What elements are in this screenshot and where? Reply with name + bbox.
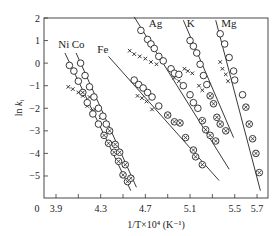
cross-marker bbox=[224, 73, 228, 77]
open-circle-marker bbox=[82, 72, 89, 79]
open-circle-marker bbox=[75, 78, 82, 85]
open-circle-marker bbox=[193, 50, 200, 57]
open-circle-marker bbox=[203, 81, 210, 88]
y-tick-label: −2 bbox=[29, 103, 40, 114]
y-tick-label: −4 bbox=[29, 148, 40, 159]
open-circle-marker bbox=[86, 84, 93, 91]
open-circle-marker bbox=[176, 71, 183, 78]
open-circle-marker bbox=[221, 41, 228, 48]
open-circle-marker bbox=[187, 91, 194, 98]
open-circle-marker bbox=[90, 111, 97, 118]
series-k: K bbox=[183, 17, 234, 138]
open-circle-marker bbox=[160, 58, 167, 65]
open-circle-marker bbox=[95, 105, 102, 112]
open-circle-marker bbox=[197, 61, 204, 68]
cross-marker bbox=[197, 84, 201, 88]
y-tick-label: −1 bbox=[29, 80, 40, 91]
open-circle-marker bbox=[155, 103, 162, 110]
x-tick-label: 5.7 bbox=[251, 203, 264, 214]
x-tick-label: 3.9 bbox=[50, 203, 63, 214]
cross-marker bbox=[177, 79, 181, 83]
cross-marker bbox=[218, 60, 222, 64]
open-circle-marker bbox=[190, 99, 197, 106]
cross-marker bbox=[66, 85, 70, 89]
cross-marker bbox=[155, 62, 159, 66]
open-circle-marker bbox=[138, 27, 145, 34]
y-tick-label: −3 bbox=[29, 125, 40, 136]
open-circle-marker bbox=[217, 30, 224, 37]
series-co: Co bbox=[72, 38, 137, 187]
cross-marker bbox=[145, 100, 149, 104]
y-axis-title: ln ki bbox=[13, 100, 26, 117]
open-circle-marker bbox=[239, 91, 246, 98]
x-tick-label: 4.3 bbox=[94, 203, 107, 214]
series-layer: NiCoFeAgKMg bbox=[58, 17, 262, 191]
y-tick-label: 2 bbox=[35, 13, 40, 24]
x-tick-label: 4.7 bbox=[139, 203, 152, 214]
x-origin-label: 0 bbox=[35, 203, 40, 214]
x-axis-ticks: 03.94.34.75.15.55.7 bbox=[35, 194, 264, 214]
cross-marker bbox=[201, 88, 205, 92]
open-circle-marker bbox=[95, 121, 102, 128]
open-circle-marker bbox=[230, 68, 237, 75]
open-circle-marker bbox=[151, 45, 158, 52]
open-circle-marker bbox=[91, 94, 98, 101]
cross-marker bbox=[190, 71, 194, 75]
open-circle-marker bbox=[66, 62, 73, 69]
open-circle-marker bbox=[190, 43, 197, 50]
x-tick-label: 5.1 bbox=[184, 203, 197, 214]
open-circle-marker bbox=[77, 60, 84, 67]
y-tick-label: 0 bbox=[35, 58, 40, 69]
series-label-fe: Fe bbox=[97, 43, 108, 55]
series-label-k: K bbox=[187, 17, 195, 29]
x-tick-label: 5.5 bbox=[228, 203, 241, 214]
open-circle-marker bbox=[103, 121, 110, 128]
y-tick-label: 1 bbox=[35, 35, 40, 46]
cross-marker bbox=[149, 60, 153, 64]
open-circle-marker bbox=[231, 77, 238, 84]
series-label-mg: Mg bbox=[221, 17, 237, 29]
cross-marker bbox=[128, 49, 132, 53]
open-circle-marker bbox=[71, 68, 78, 75]
arrhenius-chart: 210−1−2−3−4−5 03.94.34.75.15.55.7 NiCoFe… bbox=[0, 0, 280, 236]
open-circle-marker bbox=[195, 105, 202, 112]
series-mg: Mg bbox=[216, 17, 263, 191]
series-ni: Ni bbox=[58, 38, 131, 190]
open-circle-marker bbox=[180, 82, 187, 89]
cross-marker bbox=[144, 57, 148, 61]
cross-marker bbox=[150, 108, 154, 112]
cross-marker bbox=[71, 87, 75, 91]
open-circle-marker bbox=[226, 54, 233, 61]
cross-marker bbox=[226, 79, 230, 83]
series-label-ag: Ag bbox=[149, 17, 163, 29]
y-tick-label: −5 bbox=[29, 170, 40, 181]
cross-marker bbox=[136, 94, 140, 98]
cross-marker bbox=[186, 69, 190, 73]
open-circle-marker bbox=[100, 113, 107, 120]
cross-marker bbox=[132, 52, 136, 56]
series-label-ni: Ni bbox=[58, 38, 69, 50]
cross-marker bbox=[221, 67, 225, 71]
cross-marker bbox=[138, 55, 142, 59]
open-circle-marker bbox=[149, 94, 156, 101]
y-axis-ticks: 210−1−2−3−4−5 bbox=[29, 13, 48, 182]
open-circle-marker bbox=[200, 72, 207, 79]
open-circle-marker bbox=[84, 99, 91, 106]
x-axis-title: 1/T×10⁴ (K⁻¹) bbox=[127, 219, 185, 231]
cross-marker bbox=[183, 67, 187, 71]
cross-marker bbox=[140, 96, 144, 100]
series-label-co: Co bbox=[72, 38, 85, 50]
